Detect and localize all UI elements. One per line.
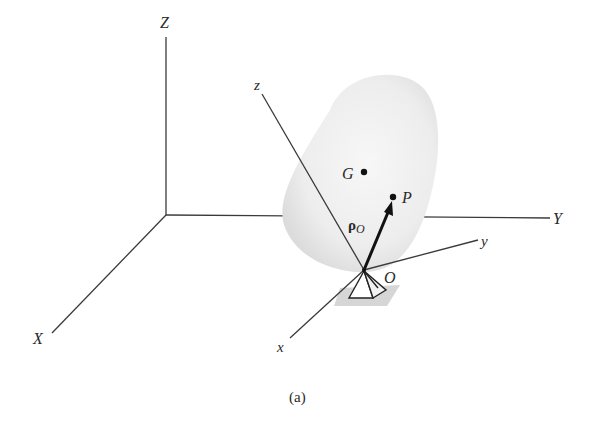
figure-caption: (a) bbox=[289, 389, 306, 406]
support-pyramid bbox=[349, 271, 386, 298]
label-Z: Z bbox=[160, 14, 170, 31]
point-G-marker bbox=[361, 169, 367, 175]
rigid-body-shape bbox=[282, 75, 438, 272]
label-Y: Y bbox=[553, 210, 564, 227]
label-y: y bbox=[479, 233, 488, 249]
label-G: G bbox=[342, 165, 354, 182]
rigid-body-diagram: Z Y X z y x G P O ρO (a) bbox=[0, 0, 600, 423]
label-X: X bbox=[32, 330, 44, 347]
point-P-marker bbox=[390, 194, 396, 200]
point-O-marker bbox=[362, 268, 366, 272]
label-P: P bbox=[401, 189, 412, 206]
X-axis-line bbox=[52, 215, 166, 333]
label-z: z bbox=[253, 77, 260, 93]
label-x: x bbox=[276, 339, 284, 355]
rho-symbol: ρ bbox=[348, 217, 356, 233]
label-O: O bbox=[384, 269, 396, 286]
rho-subscript: O bbox=[356, 222, 365, 236]
